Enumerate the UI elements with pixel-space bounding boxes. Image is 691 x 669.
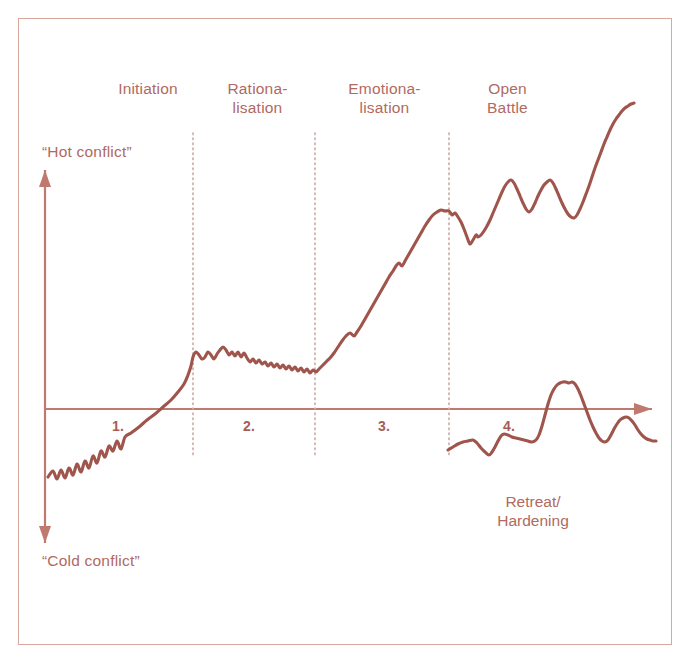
phase-label-rationalisation: Rationa- lisation — [210, 80, 305, 118]
retreat-hardening-curve — [448, 382, 656, 455]
phase-number-4: 4. — [503, 418, 515, 434]
axis-arrow-down-icon — [39, 526, 51, 543]
phase-number-2: 2. — [243, 418, 255, 434]
phase-dividers-group — [193, 133, 449, 455]
retreat-hardening-label: Retreat/ Hardening — [478, 493, 588, 531]
phase-number-1: 1. — [112, 418, 124, 434]
main-escalation-curve — [48, 103, 634, 479]
phase-number-3: 3. — [378, 418, 390, 434]
figure-caption — [18, 656, 678, 669]
axis-arrow-right-icon — [634, 403, 652, 415]
hot-conflict-label: “Hot conflict” — [42, 143, 132, 162]
phase-label-open-battle: Open Battle — [465, 80, 550, 118]
curves-group — [48, 103, 656, 479]
axes-group — [39, 170, 652, 543]
phase-label-initiation: Initiation — [88, 80, 208, 99]
phase-label-emotionalisation: Emotiona- lisation — [332, 80, 437, 118]
conflict-escalation-figure: Initiation Rationa- lisation Emotiona- l… — [0, 0, 691, 669]
axis-arrow-up-icon — [39, 170, 51, 187]
cold-conflict-label: “Cold conflict” — [42, 552, 140, 571]
